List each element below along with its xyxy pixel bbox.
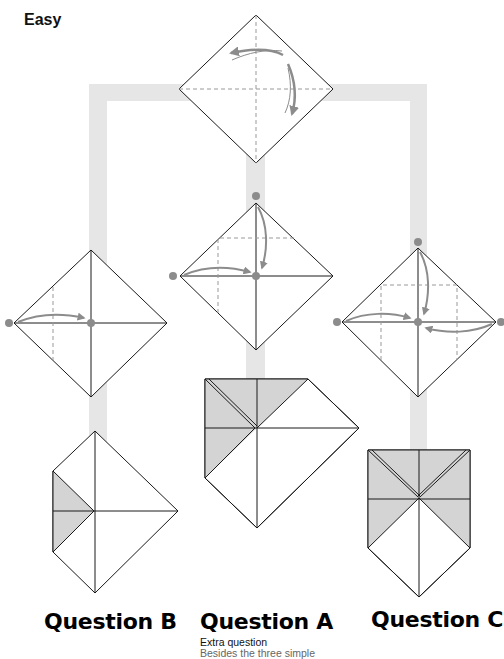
result-a-shape xyxy=(205,379,359,528)
question-b-label: Question B xyxy=(44,609,177,634)
dot-icon xyxy=(252,272,260,280)
dot-icon xyxy=(5,319,13,327)
dot-icon xyxy=(252,192,260,200)
start-diamond xyxy=(179,15,333,163)
dot-icon xyxy=(169,272,177,280)
dot-icon xyxy=(87,319,95,327)
dot-icon xyxy=(497,318,504,326)
extra-question-body: Besides the three simple xyxy=(200,647,315,659)
result-c-shape xyxy=(368,450,470,597)
step-b-diamond xyxy=(5,250,167,397)
question-c-label: Question C xyxy=(371,607,503,632)
dot-icon xyxy=(414,318,422,326)
question-a-label: Question A xyxy=(200,609,333,634)
step-a-diamond xyxy=(169,192,333,350)
difficulty-label: Easy xyxy=(24,11,61,29)
result-b-shape xyxy=(53,431,178,593)
dot-icon xyxy=(414,238,422,246)
dot-icon xyxy=(333,318,341,326)
step-c-diamond xyxy=(333,238,504,397)
